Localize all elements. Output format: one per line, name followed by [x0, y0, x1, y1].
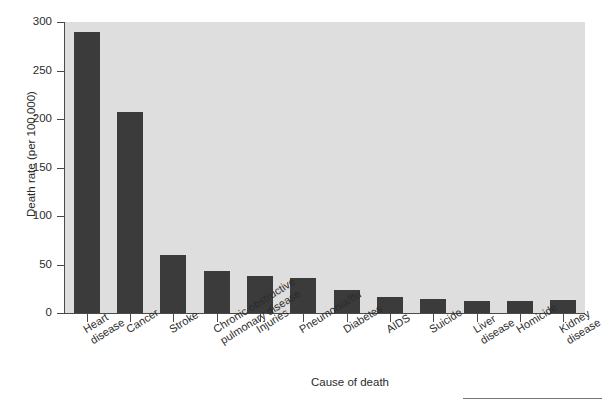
bar-chart-figure: 050100150200250300 Heart diseaseCancerSt… [0, 0, 607, 416]
y-axis-tick-label: 250 [6, 65, 52, 77]
y-axis-tick [57, 265, 65, 266]
y-axis-tick [57, 313, 65, 314]
y-axis-tick-label: 300 [6, 16, 52, 28]
bar [74, 32, 100, 313]
y-axis-tick [57, 168, 65, 169]
bar [507, 301, 533, 313]
plot-area [65, 22, 585, 313]
y-axis-tick-label: 50 [6, 259, 52, 271]
y-axis-title: Death rate (per 100,000) [25, 79, 37, 229]
y-axis-tick [57, 71, 65, 72]
x-axis-title: Cause of death [285, 376, 415, 388]
bottom-divider-rule [463, 398, 602, 399]
y-axis-tick [57, 22, 65, 23]
bar [420, 299, 446, 313]
y-axis-tick-label: 0 [6, 307, 52, 319]
bar [464, 301, 490, 313]
bar [204, 271, 230, 313]
bar [117, 112, 143, 313]
bar [160, 255, 186, 313]
y-axis-tick [57, 216, 65, 217]
y-axis-tick [57, 119, 65, 120]
bars-layer [65, 22, 585, 313]
x-axis-category-label: AIDS [384, 311, 412, 335]
